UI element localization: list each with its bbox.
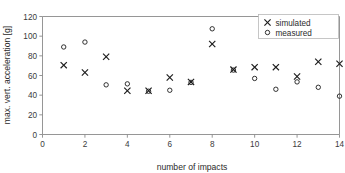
data-point-measured <box>168 88 172 92</box>
legend-label-measured: measured <box>276 29 313 38</box>
data-point-measured <box>104 83 108 87</box>
legend-label-simulated: simulated <box>276 19 311 28</box>
data-point-measured <box>83 40 87 44</box>
y-tick-label: 80 <box>28 52 38 61</box>
x-tick-label: 12 <box>293 140 303 149</box>
chart-figure: 02040608010012002468101214 simulatedmeas… <box>0 0 345 173</box>
chart-legend: simulatedmeasured <box>259 15 339 39</box>
data-point-measured <box>316 85 320 89</box>
data-point-simulated <box>103 54 109 60</box>
x-tick-label: 2 <box>83 140 88 149</box>
y-axis-title: max. vert. acceleration [g] <box>2 26 12 124</box>
data-point-simulated <box>315 59 321 65</box>
scatter-plot: 02040608010012002468101214 simulatedmeas… <box>0 0 345 173</box>
x-tick-label: 10 <box>250 140 260 149</box>
y-tick-label: 100 <box>23 32 37 41</box>
y-tick-label: 20 <box>28 111 38 120</box>
x-tick-label: 0 <box>40 140 45 149</box>
x-tick-label: 8 <box>210 140 215 149</box>
data-point-simulated <box>82 69 88 75</box>
data-point-measured <box>125 82 129 86</box>
data-point-simulated <box>294 73 300 79</box>
y-tick-label: 0 <box>32 131 37 140</box>
data-point-simulated <box>252 64 258 70</box>
y-tick-label: 120 <box>23 13 37 22</box>
x-axis-title: number of impacts <box>157 162 228 172</box>
x-tick-label: 4 <box>125 140 130 149</box>
data-point-simulated <box>209 41 215 47</box>
data-point-simulated <box>124 88 130 94</box>
y-tick-label: 40 <box>28 91 38 100</box>
data-point-simulated <box>167 74 173 80</box>
data-point-simulated <box>273 64 279 70</box>
data-point-measured <box>62 45 66 49</box>
x-tick-label: 14 <box>335 140 345 149</box>
data-point-measured <box>210 27 214 31</box>
y-tick-label: 60 <box>28 72 38 81</box>
data-point-measured <box>295 80 299 84</box>
data-point-measured <box>274 87 278 91</box>
x-tick-label: 6 <box>168 140 173 149</box>
data-point-measured <box>252 76 256 80</box>
data-point-simulated <box>61 62 67 68</box>
